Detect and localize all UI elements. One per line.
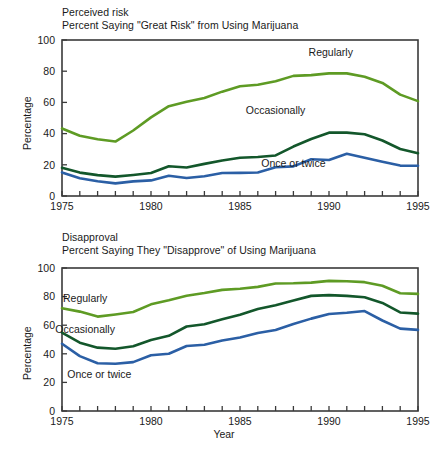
- x-tick-label: 1980: [139, 200, 163, 212]
- y-tick-label: 40: [43, 348, 55, 360]
- y-tick-label: 60: [43, 319, 55, 331]
- series-annotation-once-or-twice: Once or twice: [67, 368, 131, 380]
- x-tick-label: 1995: [406, 200, 430, 212]
- series-line-regularly: [62, 73, 418, 141]
- y-tick-label: 80: [43, 65, 55, 77]
- series-annotation-regularly: Regularly: [63, 292, 108, 304]
- x-tick-label: 1995: [406, 415, 430, 427]
- y-tick-label: 100: [37, 34, 55, 46]
- x-tick-label: 1990: [317, 200, 341, 212]
- series-annotation-regularly: Regularly: [309, 46, 354, 58]
- x-tick-label: 1980: [139, 415, 163, 427]
- y-tick-label: 20: [43, 159, 55, 171]
- y-tick-label: 40: [43, 127, 55, 139]
- series-line-occasionally: [62, 133, 418, 177]
- chart-panel-perceived-risk: Perceived risk Percent Saying "Great Ris…: [0, 0, 438, 225]
- x-tick-label: 1975: [50, 415, 74, 427]
- x-tick-label: 1990: [317, 415, 341, 427]
- chart-panel-disapproval: Disapproval Percent Saying They "Disappr…: [0, 225, 438, 459]
- y-tick-label: 80: [43, 290, 55, 302]
- plot-area-bottom: 02040608010019751980198519901995Regularl…: [0, 225, 438, 459]
- figure-container: Perceived risk Percent Saying "Great Ris…: [0, 0, 438, 459]
- plot-area-top: 02040608010019751980198519901995Regularl…: [0, 0, 438, 225]
- series-line-once-or-twice: [62, 311, 418, 364]
- y-tick-label: 60: [43, 96, 55, 108]
- x-tick-label: 1975: [50, 200, 74, 212]
- series-annotation-occasionally: Occasionally: [246, 104, 306, 116]
- y-tick-label: 20: [43, 376, 55, 388]
- series-annotation-occasionally: Occasionally: [55, 323, 115, 335]
- series-annotation-once-or-twice: Once or twice: [261, 157, 325, 169]
- x-tick-label: 1985: [228, 415, 252, 427]
- y-tick-label: 100: [37, 262, 55, 274]
- series-line-occasionally: [62, 295, 418, 349]
- x-tick-label: 1985: [228, 200, 252, 212]
